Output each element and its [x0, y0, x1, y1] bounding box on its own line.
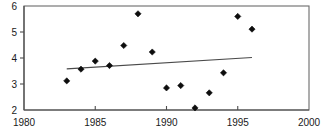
y-tick-label: 3 [11, 79, 17, 90]
plot-frame [24, 6, 309, 110]
data-point-marker [106, 62, 112, 68]
y-tick-label: 6 [11, 1, 17, 12]
data-point-marker [135, 11, 141, 17]
y-tick-label: 5 [11, 27, 17, 38]
data-point-marker [92, 58, 98, 64]
y-tick-label: 4 [11, 53, 17, 64]
data-point-marker [249, 26, 255, 32]
scatter-chart: 2345619801985199019952000 [0, 0, 324, 132]
data-point-marker [235, 13, 241, 19]
data-point-marker [121, 42, 127, 48]
data-point-marker [178, 82, 184, 88]
data-point-marker [163, 85, 169, 91]
data-point-marker [220, 70, 226, 76]
x-tick-label: 1980 [13, 117, 36, 128]
data-point-marker [78, 66, 84, 72]
chart-canvas: 2345619801985199019952000 [0, 0, 324, 132]
x-tick-label: 1995 [227, 117, 250, 128]
x-tick-label: 1985 [84, 117, 107, 128]
x-tick-label: 2000 [298, 117, 321, 128]
x-tick-label: 1990 [155, 117, 178, 128]
data-point-marker [64, 78, 70, 84]
y-tick-label: 2 [11, 105, 17, 116]
data-point-marker [149, 49, 155, 55]
data-point-marker [206, 90, 212, 96]
